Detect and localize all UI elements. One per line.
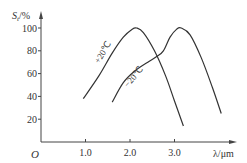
x-tick-label: 1.0 (79, 147, 92, 158)
series-label-minus20: −20℃ (122, 64, 145, 89)
x-tick-label: 3.0 (168, 147, 181, 158)
y-tick-label: 100 (22, 23, 37, 34)
y-tick-label: 40 (27, 91, 37, 102)
x-axis-label: λ/μm (213, 148, 234, 159)
origin-label: O (31, 148, 39, 160)
x-tick-label: 2.0 (124, 147, 137, 158)
x-axis-arrow-icon (229, 140, 237, 144)
y-tick-label: 60 (27, 68, 37, 79)
y-tick-label: 20 (27, 114, 37, 125)
series-label-plus20: +20℃ (92, 39, 113, 65)
y-axis-arrow-icon (39, 11, 43, 19)
curve-minus20 (112, 28, 221, 114)
y-axis-label: St/% (12, 10, 30, 23)
y-ticks: 20406080100 (22, 23, 41, 125)
chart: 20406080100 1.02.03.0 St/% λ/μm O +20℃ −… (0, 0, 247, 163)
y-tick-label: 80 (27, 45, 37, 56)
